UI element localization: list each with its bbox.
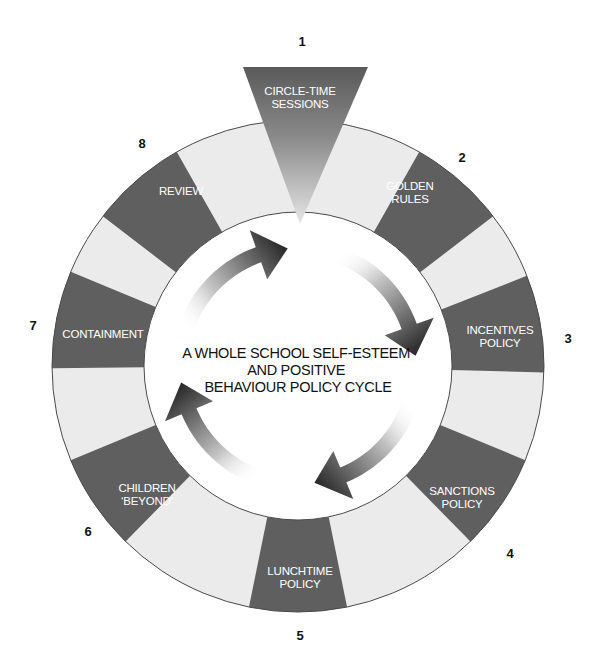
- step-label-line: ‘BEYOND’: [121, 495, 173, 507]
- step-label-8: REVIEW: [159, 185, 204, 197]
- step-number-7: 7: [29, 318, 36, 333]
- step-label-line: SESSIONS: [271, 98, 329, 110]
- step-label-6: CHILDREN‘BEYOND’: [118, 482, 175, 507]
- step-label-line: INCENTIVES: [466, 324, 534, 336]
- step-label-7: CONTAINMENT: [62, 328, 143, 340]
- center-title-line-1: A WHOLE SCHOOL SELF-ESTEEM: [182, 345, 410, 361]
- step-label-1: CIRCLE-TIMESESSIONS: [264, 85, 336, 110]
- step-number-3: 3: [564, 331, 571, 346]
- step-label-line: GOLDEN: [386, 180, 433, 192]
- step-label-line: SANCTIONS: [429, 485, 495, 497]
- step-label-line: POLICY: [480, 337, 522, 349]
- step-number-4: 4: [506, 546, 514, 561]
- step-number-1: 1: [298, 34, 305, 49]
- step-label-line: POLICY: [280, 578, 322, 590]
- step-label-line: POLICY: [442, 498, 484, 510]
- step-label-2: GOLDENRULES: [386, 180, 433, 205]
- step-number-2: 2: [458, 150, 465, 165]
- step-label-line: CHILDREN: [118, 482, 175, 494]
- policy-cycle-diagram: CIRCLE-TIMESESSIONSGOLDENRULESINCENTIVES…: [0, 0, 599, 664]
- center-title-line-3: BEHAVIOUR POLICY CYCLE: [204, 379, 392, 395]
- center-title-line-2: AND POSITIVE: [247, 362, 346, 378]
- step-number-5: 5: [296, 628, 303, 643]
- step-label-line: CONTAINMENT: [62, 328, 143, 340]
- step-label-line: REVIEW: [159, 185, 204, 197]
- step-number-8: 8: [138, 136, 145, 151]
- step-number-6: 6: [84, 524, 91, 539]
- step-label-line: LUNCHTIME: [267, 565, 333, 577]
- step-label-line: RULES: [391, 193, 429, 205]
- step-label-line: CIRCLE-TIME: [264, 85, 336, 97]
